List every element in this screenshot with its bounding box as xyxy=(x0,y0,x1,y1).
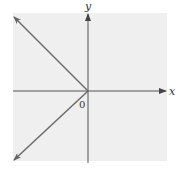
x-axis-label: x xyxy=(169,85,176,98)
function-graph: x y 0 xyxy=(0,0,182,169)
y-axis-label: y xyxy=(84,0,92,13)
origin-label: 0 xyxy=(79,99,85,110)
